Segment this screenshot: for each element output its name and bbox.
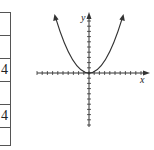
y-axis: y (80, 12, 92, 127)
vertex-point (88, 72, 91, 75)
parabola-graph: x y (0, 0, 154, 150)
x-axis-label: x (139, 74, 145, 85)
y-axis-label: y (80, 12, 86, 23)
x-axis: x (37, 71, 150, 86)
curve-arrow-left-icon (53, 14, 58, 21)
curve-arrow-right-icon (119, 14, 124, 21)
y-axis-arrow-icon (87, 12, 92, 19)
